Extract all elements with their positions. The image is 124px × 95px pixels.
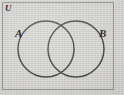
universal-set-label: U <box>5 4 12 13</box>
set-a-label: A <box>15 28 22 39</box>
set-b-circle <box>48 21 104 77</box>
venn-diagram-figure: U A B <box>0 0 124 95</box>
set-b-label: B <box>99 28 106 39</box>
venn-circles-svg <box>0 0 124 95</box>
set-a-circle <box>18 21 74 77</box>
